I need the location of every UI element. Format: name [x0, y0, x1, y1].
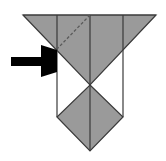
origami-diagram	[0, 0, 166, 161]
arrow-right-icon	[11, 45, 57, 77]
